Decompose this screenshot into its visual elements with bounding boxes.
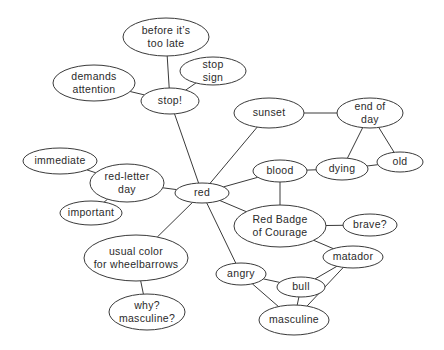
node-label: bull xyxy=(292,280,310,292)
edge-stop-sign-to-stop xyxy=(186,83,196,90)
node-label: usual color xyxy=(109,245,163,257)
node-important: important xyxy=(60,201,122,225)
node-label: immediate xyxy=(34,154,85,166)
node-red: red xyxy=(175,183,229,203)
node-demands-attention: demandsattention xyxy=(53,65,135,101)
edge-red-badge-of-courage-to-matador xyxy=(314,240,334,248)
edge-immediate-to-red-letter-day xyxy=(87,170,96,173)
node-label: matador xyxy=(333,250,374,262)
node-label: stop xyxy=(202,58,223,70)
node-before-its-too-late: before it’stoo late xyxy=(123,18,209,56)
node-label: old xyxy=(393,155,408,167)
node-label: red xyxy=(194,186,210,198)
node-sunset: sunset xyxy=(234,98,304,128)
node-label: why? xyxy=(133,299,160,311)
node-label: demands xyxy=(71,70,116,82)
edge-sunset-to-red xyxy=(210,127,257,183)
node-label: before it’s xyxy=(142,24,191,36)
node-angry: angry xyxy=(216,263,266,285)
edge-blood-to-red xyxy=(224,177,258,187)
node-label: end of xyxy=(355,100,386,112)
node-label: Red Badge xyxy=(252,213,307,225)
edge-red-to-angry xyxy=(207,203,236,263)
node-label: sign xyxy=(203,71,223,83)
node-immediate: immediate xyxy=(23,148,97,174)
nodes-layer: before it’stoo latestopsigndemandsattent… xyxy=(23,18,423,335)
node-label: day xyxy=(118,183,136,195)
node-stop-sign: stopsign xyxy=(180,57,246,85)
node-masculine: masculine xyxy=(259,305,329,335)
node-label: brave? xyxy=(353,218,387,230)
node-label: stop! xyxy=(158,94,182,106)
edge-red-letter-day-to-red xyxy=(163,188,177,190)
node-label: too late xyxy=(148,37,185,49)
edge-end-of-day-to-old xyxy=(379,128,394,153)
node-label: masculine xyxy=(269,313,319,325)
edge-before-its-too-late-to-stop xyxy=(167,56,169,88)
edge-important-to-red-letter-day xyxy=(104,199,108,202)
node-stop: stop! xyxy=(141,88,199,114)
node-label: sunset xyxy=(253,106,286,118)
edge-angry-to-bull xyxy=(263,279,279,283)
concept-map: before it’stoo latestopsigndemandsattent… xyxy=(0,0,444,350)
node-blood: blood xyxy=(253,160,307,182)
node-usual-color-for-wheelbarrows: usual colorfor wheelbarrows xyxy=(84,235,188,281)
node-label: for wheelbarrows xyxy=(94,258,179,270)
node-old: old xyxy=(377,152,423,172)
node-label: blood xyxy=(266,164,293,176)
node-brave: brave? xyxy=(343,214,397,236)
edge-angry-to-masculine xyxy=(252,284,278,307)
node-dying: dying xyxy=(316,158,368,180)
node-label: masculine? xyxy=(119,312,175,324)
node-red-badge-of-courage: Red Badgeof Courage xyxy=(234,205,326,247)
edge-stop-to-red xyxy=(175,114,199,183)
edge-red-to-red-badge-of-courage xyxy=(220,201,247,212)
edge-usual-color-for-wheelbarrows-to-why-masculine xyxy=(141,281,144,294)
node-label: important xyxy=(68,206,114,218)
edge-bull-to-masculine xyxy=(297,297,299,305)
edge-red-to-usual-color-for-wheelbarrows xyxy=(157,202,192,237)
node-label: dying xyxy=(329,162,356,174)
node-label: of Courage xyxy=(253,226,308,238)
node-label: angry xyxy=(227,267,255,279)
edge-dying-to-old xyxy=(367,165,378,166)
node-label: red-letter xyxy=(104,170,149,182)
node-matador: matador xyxy=(323,246,383,268)
node-label: attention xyxy=(73,83,116,95)
node-label: day xyxy=(361,113,379,125)
node-end-of-day: end ofday xyxy=(337,98,403,128)
node-red-letter-day: red-letterday xyxy=(90,164,164,202)
node-why-masculine: why?masculine? xyxy=(109,294,185,330)
node-bull: bull xyxy=(277,277,325,297)
edge-end-of-day-to-dying xyxy=(347,128,362,159)
edge-demands-attention-to-stop xyxy=(130,92,144,95)
